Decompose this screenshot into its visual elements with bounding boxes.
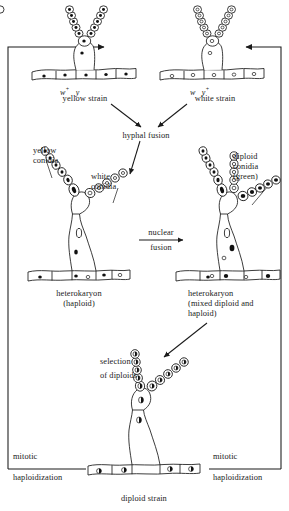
hyphal-fusion-label: hyphal fusion [122, 131, 169, 141]
parasexual-cycle-artwork [0, 0, 289, 511]
mitotic-haploidization-right-line2: haploidization [213, 473, 262, 483]
yellow-conidia-label-line2: conidia [33, 156, 58, 166]
white-strain-figure [160, 6, 264, 80]
yellow-strain-label: yellow strain [63, 94, 108, 104]
diagram-canvas: w+ y yellow strain w y+ white strain hyp… [0, 0, 289, 511]
heterokaryon-haploid-label-line2: (haploid) [63, 299, 95, 309]
mitotic-haploidization-left-line2: haploidization [13, 473, 62, 483]
heterokaryon-mixed-label-line3: haploid) [188, 309, 217, 319]
nuclear-fusion-label-line1: nuclear [148, 228, 173, 238]
yellow-strain-figure [0, 6, 136, 80]
selection-arrow [164, 323, 207, 357]
yellow-conidia-label-line1: yellow [33, 146, 56, 156]
diploid-conidia-label-line2: conidia [233, 162, 258, 172]
white-strain-label: white strain [195, 94, 236, 104]
diploid-conidia-label-line3: (green) [233, 172, 258, 182]
heterokaryon-mixed-label-line2: (mixed diploid and [188, 299, 254, 309]
heterokaryon-haploid-label-line1: heterokaryon [56, 289, 101, 299]
diploid-strain-figure [88, 349, 200, 475]
diploid-strain-label: diploid strain [121, 494, 167, 504]
mitotic-haploidization-left-line1: mitotic [13, 452, 37, 462]
diploid-conidia-label-line1: diploid [233, 152, 257, 162]
selection-label-line1: selection [100, 357, 131, 367]
heterokaryon-mixed-figure [176, 146, 281, 281]
heterokaryon-mixed-label-line1: heterokaryon [188, 289, 233, 299]
diploid-nucleus [138, 383, 142, 388]
white-conidia-label-line1: white [91, 172, 110, 182]
white-conidia-label-line2: conidia [91, 182, 116, 192]
nuclear-fusion-label-line2: fusion [150, 243, 172, 253]
mitotic-haploidization-right-line1: mitotic [213, 452, 237, 462]
selection-label-line2: of diploids [100, 371, 137, 381]
